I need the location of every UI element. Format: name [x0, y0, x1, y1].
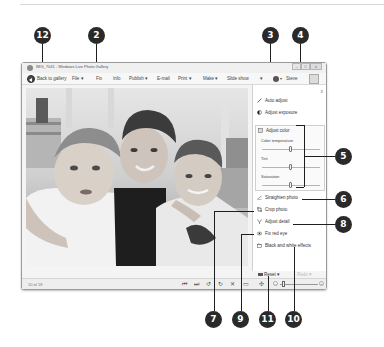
crop-icon: [257, 207, 262, 212]
color-icon: [258, 128, 263, 133]
callout-11: 11: [259, 311, 276, 328]
black-and-white-effects-label: Black and white effects: [265, 243, 311, 248]
crop-photo-label: Crop photo: [265, 207, 287, 212]
close-button[interactable]: x: [310, 63, 322, 70]
fix-red-eye-button[interactable]: Fix red eye: [257, 231, 287, 236]
menu-slide-show[interactable]: Slide show: [227, 76, 249, 81]
previous-button[interactable]: ⏮: [182, 281, 187, 287]
straighten-photo-label: Straighten photo: [265, 195, 298, 200]
pane-close-button[interactable]: x: [321, 88, 324, 94]
menu-publish[interactable]: Publish ▾: [129, 76, 148, 81]
toolbar: Back to gallery File ▾ Fix Info Publish …: [22, 73, 326, 85]
user-avatar[interactable]: [309, 74, 319, 84]
tint-label: Tint: [261, 156, 268, 161]
wand-icon: [257, 98, 262, 103]
help-caret[interactable]: ▾: [280, 76, 282, 81]
callout-9: 9: [232, 311, 249, 328]
tint-thumb[interactable]: [289, 164, 292, 170]
rotate-right-button[interactable]: ↻: [218, 281, 223, 287]
reset-button[interactable]: Reset ▾: [258, 272, 280, 277]
callout-10-leader: [294, 247, 295, 311]
user-name-link[interactable]: Steve: [286, 76, 298, 81]
saturation-label: Saturation: [261, 174, 279, 179]
menu-file[interactable]: File ▾: [72, 76, 84, 81]
callout-5-bracket-top: [296, 125, 304, 126]
rotate-left-button[interactable]: ↺: [206, 281, 211, 287]
reset-icon: [258, 273, 263, 276]
menu-print[interactable]: Print ▾: [178, 76, 192, 81]
window-title: IMG_7041 - Windows Live Photo Gallery: [36, 64, 108, 69]
callout-5-leader: [305, 156, 335, 157]
auto-adjust-label: Auto adjust: [265, 98, 288, 103]
zoom-slider[interactable]: [280, 284, 318, 285]
adjust-exposure-button[interactable]: Adjust exposure: [257, 110, 297, 115]
zoom-out-button[interactable]: –: [273, 281, 278, 286]
callout-5-bracket-bottom: [296, 187, 304, 188]
straighten-icon: [257, 195, 262, 200]
callout-3: 3: [262, 27, 279, 44]
adjust-exposure-label: Adjust exposure: [265, 110, 297, 115]
callout-7-leader: [214, 211, 215, 311]
menu-email[interactable]: E-mail: [157, 76, 170, 81]
callout-5: 5: [335, 148, 352, 165]
title-bar: IMG_7041 - Windows Live Photo Gallery – …: [22, 63, 326, 73]
saturation-thumb[interactable]: [289, 182, 292, 188]
fit-to-window-button[interactable]: ▭: [243, 281, 249, 287]
actual-size-button[interactable]: ✣: [259, 281, 264, 287]
color-temperature-thumb[interactable]: [289, 146, 292, 152]
callout-7-leader-h: [214, 211, 254, 212]
adjust-color-group: Adjust color Color temperature Tint Satu…: [255, 125, 325, 191]
delete-button[interactable]: ✕: [230, 281, 235, 287]
auto-adjust-button[interactable]: Auto adjust: [257, 98, 288, 103]
maximize-button[interactable]: □: [301, 63, 310, 70]
menu-make[interactable]: Make ▾: [203, 76, 218, 81]
menu-fix[interactable]: Fix: [96, 76, 102, 81]
photo-count: 10 of 18: [28, 282, 42, 287]
callout-8-leader: [293, 224, 335, 225]
callout-9-leader: [241, 234, 242, 311]
page-top-rule: [20, 4, 384, 5]
zoom-slider-thumb[interactable]: [282, 281, 285, 287]
adjust-detail-button[interactable]: Adjust detail: [257, 219, 290, 224]
photo-gallery-window: IMG_7041 - Windows Live Photo Gallery – …: [21, 62, 327, 290]
status-bar: 10 of 18 ⏮ ⏭ ↺ ↻ ✕ ▭ ✣ – +: [22, 278, 326, 289]
crop-photo-button[interactable]: Crop photo: [257, 207, 287, 212]
callout-6-leader: [302, 199, 335, 200]
detail-icon: [257, 219, 262, 224]
app-icon: [27, 65, 33, 71]
minimize-button[interactable]: –: [292, 63, 301, 70]
adjust-color-button[interactable]: Adjust color: [258, 128, 290, 133]
help-icon[interactable]: [273, 76, 279, 82]
redo-button[interactable]: Redo ▾: [297, 272, 312, 277]
reset-label: Reset ▾: [264, 272, 280, 277]
callout-6: 6: [335, 191, 352, 208]
adjust-detail-label: Adjust detail: [265, 219, 290, 224]
bw-effects-icon: [257, 243, 262, 248]
menu-info[interactable]: Info: [113, 76, 121, 81]
black-and-white-effects-button[interactable]: Black and white effects: [257, 243, 311, 248]
eye-icon: [257, 231, 262, 236]
callout-4: 4: [292, 27, 309, 44]
callout-12: 12: [34, 27, 51, 44]
callout-10: 10: [285, 311, 302, 328]
back-to-gallery-button[interactable]: Back to gallery: [37, 76, 67, 81]
callout-9-leader-h: [241, 234, 254, 235]
straighten-photo-button[interactable]: Straighten photo: [257, 195, 298, 200]
window-controls: – □ x: [292, 63, 322, 70]
next-button[interactable]: ⏭: [194, 281, 199, 287]
callout-8: 8: [335, 216, 352, 233]
color-temperature-label: Color temperature: [261, 138, 293, 143]
back-arrow-icon[interactable]: [27, 75, 35, 83]
fix-edit-pane: x Auto adjust Adjust exposure Adjust col…: [252, 85, 326, 271]
adjust-color-label: Adjust color: [266, 128, 290, 133]
slide-show-dropdown[interactable]: ▾: [260, 76, 263, 81]
exposure-icon: [257, 110, 262, 115]
zoom-in-button[interactable]: +: [319, 281, 324, 286]
callout-11-leader: [268, 276, 269, 311]
fix-red-eye-label: Fix red eye: [265, 231, 287, 236]
callout-2: 2: [88, 27, 105, 44]
callout-7: 7: [205, 311, 222, 328]
